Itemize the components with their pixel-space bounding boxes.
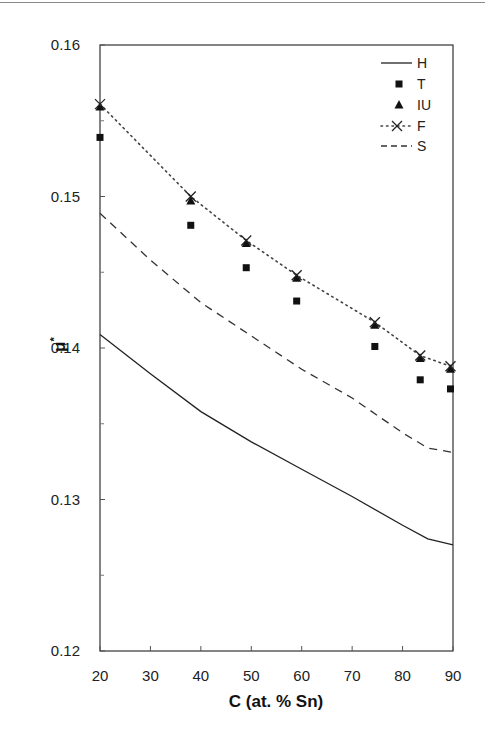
x-tick-label: 20 xyxy=(92,667,109,684)
series-h xyxy=(100,334,453,545)
legend: HTIUFS xyxy=(381,55,431,154)
x-tick-label: 70 xyxy=(344,667,361,684)
x-axis-label: C (at. % Sn) xyxy=(229,692,323,711)
y-axis-label-main: μ xyxy=(50,342,69,352)
legend-entry-f: F xyxy=(381,118,426,134)
legend-label: H xyxy=(417,55,427,71)
series-iu xyxy=(96,102,455,373)
y-tick-label: 0.12 xyxy=(51,642,80,659)
y-tick-label: 0.15 xyxy=(51,188,80,205)
x-tick-label: 80 xyxy=(394,667,411,684)
y-tick-label: 0.13 xyxy=(51,491,80,508)
series-f xyxy=(95,99,455,371)
y-axis-label-sup: * xyxy=(48,337,60,342)
legend-entry-iu: IU xyxy=(395,97,432,113)
legend-label: S xyxy=(417,138,426,154)
y-tick-label: 0.16 xyxy=(51,36,80,53)
legend-label: T xyxy=(417,76,426,92)
x-axis-ticks: 2030405060708090 xyxy=(92,646,462,684)
x-tick-label: 40 xyxy=(193,667,210,684)
chart-canvas: 2030405060708090 0.120.130.140.150.16 HT… xyxy=(0,0,485,749)
legend-entry-t: T xyxy=(396,76,427,92)
series-t xyxy=(97,134,454,392)
legend-entry-h: H xyxy=(381,55,427,71)
legend-entry-s: S xyxy=(381,138,426,154)
legend-label: F xyxy=(417,118,426,134)
x-tick-label: 30 xyxy=(142,667,159,684)
legend-label: IU xyxy=(417,97,431,113)
series-s xyxy=(100,213,453,452)
x-tick-label: 90 xyxy=(445,667,462,684)
plot-frame xyxy=(100,45,453,651)
data-series xyxy=(95,99,455,545)
x-tick-label: 60 xyxy=(293,667,310,684)
x-tick-label: 50 xyxy=(243,667,260,684)
